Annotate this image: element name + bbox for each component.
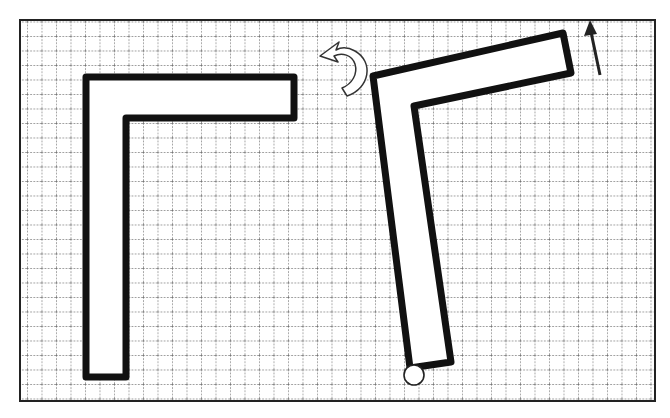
pivot-point xyxy=(404,365,424,385)
rotation-diagram xyxy=(0,0,670,418)
